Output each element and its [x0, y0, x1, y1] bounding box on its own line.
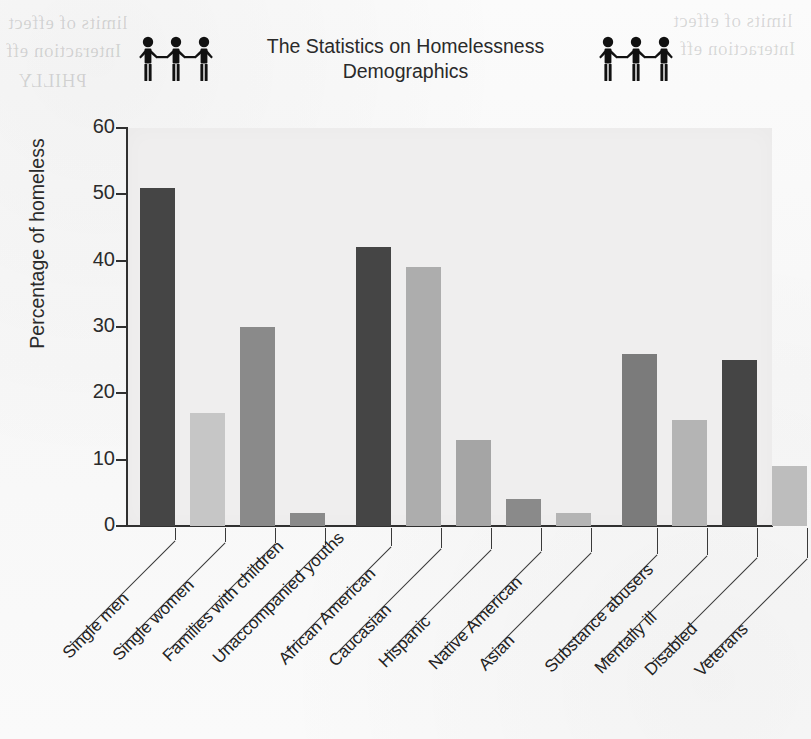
y-tick-mark [116, 260, 127, 262]
y-tick-label: 50 [71, 181, 115, 204]
y-axis-title: Percentage of homeless [26, 94, 49, 394]
y-tick-mark [116, 392, 127, 394]
y-tick-mark [116, 326, 127, 328]
y-tick-mark [116, 525, 127, 527]
y-tick-mark [116, 459, 127, 461]
y-tick-label: 60 [71, 115, 115, 138]
y-tick-label: 30 [71, 314, 115, 337]
chart-header: The Statistics on Homelessness Demograph… [0, 34, 811, 84]
y-tick-label: 20 [71, 380, 115, 403]
y-tick-mark [116, 127, 127, 129]
bar-african-american [356, 247, 391, 526]
bar-mentally-ill [672, 420, 707, 526]
people-holding-hands-icon [597, 36, 675, 82]
bar-single-women [190, 413, 225, 526]
page-title: The Statistics on Homelessness Demograph… [241, 34, 571, 84]
people-holding-hands-icon [137, 36, 215, 82]
bar-asian [556, 513, 591, 526]
bar-veterans [772, 466, 807, 526]
bar-native-american [506, 499, 541, 526]
bar-single-men [140, 188, 175, 526]
y-tick-label: 10 [71, 447, 115, 470]
bar-disabled [722, 360, 757, 526]
bar-families-with-children [240, 327, 275, 526]
y-tick-label: 0 [71, 513, 115, 536]
bar-caucasian [406, 267, 441, 526]
y-tick-label: 40 [71, 248, 115, 271]
y-tick-mark [116, 193, 127, 195]
bar-unaccompanied-youths [290, 513, 325, 526]
bar-substance-abusers [622, 354, 657, 526]
bar-hispanic [456, 440, 491, 526]
